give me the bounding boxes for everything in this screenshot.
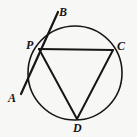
point-label-p: P	[26, 39, 33, 51]
chord-CD	[77, 50, 113, 119]
point-label-d: D	[73, 122, 82, 134]
point-label-b: B	[59, 6, 67, 18]
line-AB	[21, 12, 58, 94]
point-label-c: C	[117, 40, 125, 52]
point-label-a: A	[8, 92, 16, 104]
chord-PC	[39, 49, 113, 50]
geometry-canvas	[0, 0, 137, 137]
circle-shape	[28, 26, 122, 120]
geometry-figure: A B C D P	[0, 0, 137, 137]
